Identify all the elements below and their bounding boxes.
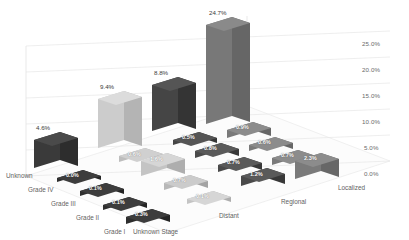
value-label-unknown-stage-grade-iv: 0.0% <box>66 172 79 178</box>
value-label-distant-unknown: 9.4% <box>100 83 114 90</box>
y-tick-10: 10.0% <box>362 118 380 125</box>
value-label-regional-grade-i: 1.2% <box>250 171 263 177</box>
y-tick-5: 5.0% <box>364 144 379 151</box>
depth-label-regional: Regional <box>281 198 306 205</box>
value-label-regional-grade-iv: 0.5% <box>182 134 195 140</box>
value-label-localized-unknown: 24.7% <box>209 9 227 16</box>
value-label-regional-unknown: 8.8% <box>154 69 168 76</box>
bar-distant-unknown <box>98 91 142 148</box>
value-label-regional-grade-iii: 0.8% <box>204 145 217 151</box>
category-label-unknown: Unknown <box>6 172 33 179</box>
category-label-grade-iv: Grade IV <box>28 186 54 193</box>
value-label-unknown-stage-grade-i: 0.3% <box>135 211 148 217</box>
value-label-distant-grade-i: 0.1% <box>196 193 209 199</box>
value-label-distant-grade-iii: 1.6% <box>150 156 163 162</box>
value-label-unknown-stage-grade-ii: 0.1% <box>112 199 125 205</box>
category-label-grade-ii: Grade II <box>76 214 99 221</box>
bar-localized-unknown <box>206 17 250 124</box>
value-label-localized-grade-ii: 0.7% <box>281 152 294 158</box>
value-label-unknown-stage-unknown: 4.6% <box>36 124 50 131</box>
depth-label-localized: Localized <box>338 184 365 191</box>
y-tick-25: 25.0% <box>362 40 380 47</box>
depth-label-distant: Distant <box>219 212 239 219</box>
value-label-localized-grade-i: 2.3% <box>304 155 317 161</box>
value-label-distant-grade-ii: 0.7% <box>173 177 186 183</box>
y-tick-0: 0.0% <box>364 170 379 177</box>
category-label-grade-iii: Grade III <box>51 200 76 207</box>
y-tick-15: 15.0% <box>362 92 380 99</box>
value-label-regional-grade-ii: 0.7% <box>227 159 240 165</box>
value-label-localized-grade-iii: 0.6% <box>258 139 271 145</box>
depth-label-unknown-stage: Unknown Stage <box>133 228 178 235</box>
y-tick-20: 20.0% <box>362 66 380 73</box>
value-label-unknown-stage-grade-iii: 0.1% <box>89 185 102 191</box>
value-label-distant-grade-iv: 0.6% <box>128 151 141 157</box>
value-label-localized-grade-iv: 0.9% <box>236 124 249 130</box>
chart-3d-bar: 25.0% 20.0% 15.0% 10.0% 5.0% 0.0% Unknow… <box>0 0 409 240</box>
bar-regional-unknown <box>152 77 196 131</box>
category-label-grade-i: Grade I <box>104 228 125 235</box>
bar-unknown-stage-unknown <box>34 132 78 168</box>
